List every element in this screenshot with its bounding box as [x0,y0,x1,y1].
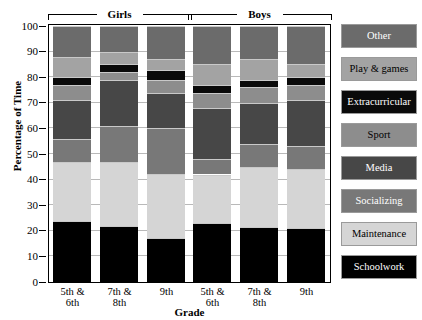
legend-item-extracurricular[interactable]: Extracurricular [341,90,417,114]
legend-label: Socializing [355,195,402,207]
bar-segment [53,26,91,57]
bar-segment [100,52,138,65]
legend-label: Sport [368,129,391,141]
y-tick-label: 0 [2,277,38,287]
bar-segment [287,228,325,282]
y-tick [39,128,46,129]
group-label-boys: Boys [237,7,283,21]
legend-item-play-games[interactable]: Play & games [341,57,417,81]
bar-segment [147,93,185,129]
group-label-girls: Girls [97,7,143,21]
bar-segment [53,77,91,85]
bar-0 [53,26,91,282]
chart-container: Girls Boys 0102030405060708090100 Percen… [0,0,422,320]
bar-segment [147,59,185,69]
legend-label: Extracurricular [347,96,411,108]
bar-segment [193,175,231,224]
bar-segment [240,103,278,144]
bracket-tick-right [331,14,332,20]
y-tick-label: 100 [2,21,38,31]
plot-area [48,24,331,283]
y-tick [39,205,46,206]
bar-segment [240,26,278,59]
bar-segment [100,72,138,80]
bar-2 [147,26,185,282]
bar-4 [240,26,278,282]
bar-segment [287,64,325,77]
bar-segment [287,85,325,100]
y-tick [39,282,46,283]
bar-segment [147,174,185,238]
bar-segment [240,87,278,102]
y-tick [39,102,46,103]
bar-3 [193,26,231,282]
bar-segment [240,144,278,167]
x-tick-label-line: 9th [279,286,335,297]
bar-segment [100,162,138,226]
x-tick-label-line: 8th [232,297,288,308]
bar-segment [193,159,231,174]
legend-label: Media [366,162,393,174]
bar-segment [147,26,185,59]
legend-item-media[interactable]: Media [341,156,417,180]
bar-segment [240,167,278,227]
group-bracket-boys: Boys [188,7,332,21]
bar-segment [100,126,138,162]
bracket-tick-left [48,14,49,20]
legend-item-sport[interactable]: Sport [341,123,417,147]
bar-segment [53,139,91,162]
bar-segment [193,108,231,159]
y-axis-title: Percentage of Time [11,46,23,206]
y-tick [39,77,46,78]
bar-segment [147,70,185,80]
bar-segment [240,80,278,88]
legend-label: Play & games [350,63,409,75]
legend-item-maintenance[interactable]: Maintenance [341,222,417,246]
x-tick-label: 9th [279,286,335,297]
bar-segment [100,80,138,126]
y-tick [39,26,46,27]
legend-label: Schoolwork [354,261,405,273]
bracket-tick-left [188,14,189,20]
bar-segment [147,238,185,282]
legend-label: Other [367,30,391,42]
legend: OtherPlay & gamesExtracurricularSportMed… [341,24,419,288]
bar-segment [53,100,91,138]
y-tick [39,154,46,155]
bar-segment [53,221,91,282]
bar-segment [100,64,138,72]
bar-segment [147,128,185,174]
bar-segment [193,223,231,282]
legend-item-socializing[interactable]: Socializing [341,189,417,213]
y-tick [39,256,46,257]
group-bracket-girls: Girls [48,7,192,21]
bar-segment [287,26,325,64]
bar-segment [287,169,325,228]
legend-label: Maintenance [352,228,406,240]
bar-segment [240,227,278,282]
y-tick [39,230,46,231]
y-tick [39,51,46,52]
legend-item-other[interactable]: Other [341,24,417,48]
bar-5 [287,26,325,282]
bar-segment [100,26,138,52]
bar-segment [147,80,185,93]
bar-segment [193,64,231,84]
bar-segment [240,59,278,79]
bar-segment [193,85,231,93]
bar-segment [100,226,138,282]
bar-segment [287,100,325,146]
legend-item-schoolwork[interactable]: Schoolwork [341,255,417,279]
x-tick-label-line: 8th [92,297,148,308]
bar-segment [287,146,325,169]
bar-segment [193,93,231,108]
bar-segment [53,57,91,77]
bar-segment [53,85,91,100]
y-tick-label: 20 [2,225,38,235]
y-tick [39,179,46,180]
bar-segment [287,77,325,85]
bar-segment [53,162,91,221]
y-tick-label: 10 [2,251,38,261]
bar-1 [100,26,138,282]
bar-segment [193,26,231,64]
